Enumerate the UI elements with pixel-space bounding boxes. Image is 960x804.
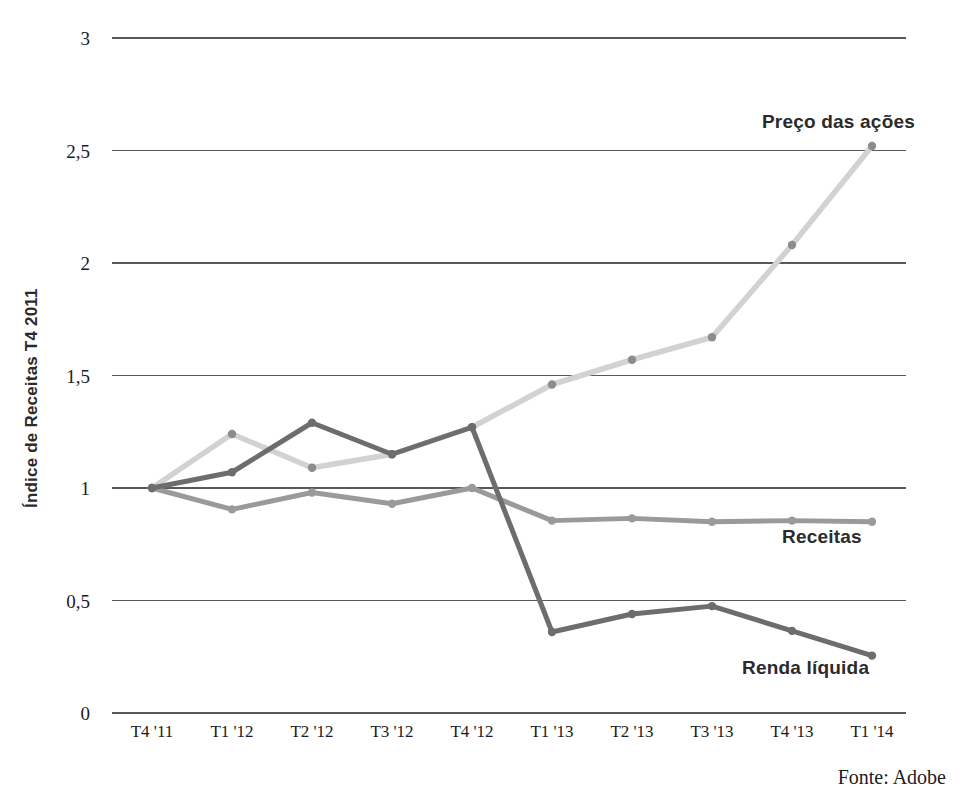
data-point <box>308 464 316 472</box>
data-point <box>388 500 396 508</box>
data-point <box>548 628 556 636</box>
data-point <box>548 380 556 388</box>
data-point <box>548 516 556 524</box>
gridlines <box>112 38 906 713</box>
source-note: Fonte: Adobe <box>838 766 946 789</box>
data-point <box>628 356 636 364</box>
series-label-1: Receitas <box>782 526 862 548</box>
data-point <box>788 516 796 524</box>
data-point <box>308 488 316 496</box>
data-point <box>868 142 876 150</box>
series-layer <box>148 142 876 660</box>
series-line-1 <box>152 488 872 522</box>
data-point <box>708 333 716 341</box>
data-point <box>708 602 716 610</box>
data-point <box>628 610 636 618</box>
data-point <box>228 505 236 513</box>
series-label-0: Preço das ações <box>762 111 915 133</box>
chart-figure: Índice de Receitas T4 2011 00,511,522,53… <box>0 0 960 804</box>
series-label-2: Renda líquida <box>742 657 869 679</box>
data-point <box>628 514 636 522</box>
data-point <box>468 484 476 492</box>
data-point <box>788 241 796 249</box>
series-line-0 <box>152 146 872 488</box>
data-point <box>228 468 236 476</box>
data-point <box>708 518 716 526</box>
data-point <box>788 627 796 635</box>
data-point <box>468 423 476 431</box>
data-point <box>148 484 156 492</box>
series-line-2 <box>152 423 872 656</box>
data-point <box>868 518 876 526</box>
data-point <box>228 430 236 438</box>
data-point <box>388 450 396 458</box>
data-point <box>308 419 316 427</box>
